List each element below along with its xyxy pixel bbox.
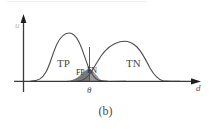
region-label-tn: TN xyxy=(126,58,141,69)
region-label-tp: TP xyxy=(57,58,70,69)
threshold-label: θ xyxy=(87,86,91,95)
figure-container: u d TP TN FP FN θ (b) xyxy=(0,0,211,129)
y-axis-arrowhead xyxy=(21,14,27,23)
y-axis-label: u xyxy=(15,21,20,30)
x-axis-label: d xyxy=(196,84,201,93)
region-label-fp: FP xyxy=(76,69,84,77)
figure-caption: (b) xyxy=(0,104,211,119)
region-label-fn: FN xyxy=(87,67,97,75)
